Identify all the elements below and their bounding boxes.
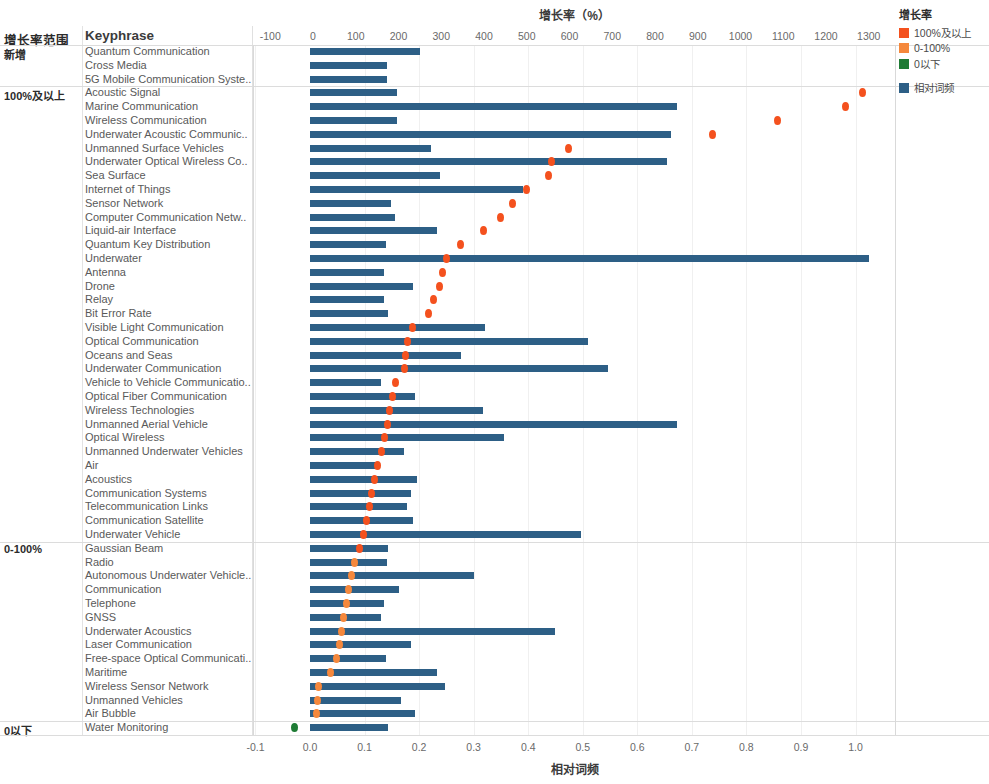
row-label-keyphrase: Optical Fiber Communication (85, 390, 227, 404)
top-tick-label: 100 (347, 30, 365, 42)
row-label-keyphrase: Antenna (85, 266, 126, 280)
legend-items: 100%及以上0-100%0以下 (899, 25, 985, 71)
row-label-keyphrase: Maritime (85, 666, 127, 680)
row-label-keyphrase: Wireless Communication (85, 114, 207, 128)
legend-swatch (899, 43, 909, 53)
legend-swatch (899, 28, 909, 38)
row-label-keyphrase: Communication Systems (85, 487, 207, 501)
row-label-keyphrase: Acoustic Signal (85, 86, 160, 100)
legend-label: 100%及以上 (914, 25, 971, 40)
row-label-keyphrase: Internet of Things (85, 183, 170, 197)
top-tick-label: 600 (561, 30, 579, 42)
row-label-keyphrase: Wireless Sensor Network (85, 680, 208, 694)
bottom-axis-title: 相对词频 (253, 760, 896, 777)
row-label-keyphrase: Laser Communication (85, 638, 192, 652)
row-label-keyphrase: Sensor Network (85, 197, 163, 211)
row-label-keyphrase: Air (85, 459, 98, 473)
row-label-keyphrase: Underwater Acoustics (85, 625, 191, 639)
row-label-keyphrase: Telephone (85, 597, 136, 611)
legend: 增长率 100%及以上0-100%0以下 相对词频 (899, 6, 985, 97)
bottom-tick-label: 0.2 (412, 741, 427, 753)
bottom-tick-label: 0.5 (575, 741, 590, 753)
top-tick-label: 1100 (772, 30, 795, 42)
legend-label: 0以下 (914, 56, 940, 71)
bottom-tick-label: 0.4 (521, 741, 536, 753)
row-label-keyphrase: Unmanned Vehicles (85, 694, 183, 708)
legend-label-bar: 相对词频 (914, 80, 954, 95)
top-tick-label: 500 (518, 30, 536, 42)
legend-item-1[interactable]: 0-100% (899, 42, 985, 54)
row-label-keyphrase: Acoustics (85, 473, 132, 487)
legend-swatch-bar (899, 83, 909, 93)
row-label-keyphrase: GNSS (85, 611, 116, 625)
row-label-keyphrase: Drone (85, 280, 115, 294)
row-label-keyphrase: Free-space Optical Communicati.. (85, 652, 251, 666)
legend-title: 增长率 (899, 6, 985, 22)
legend-item-2[interactable]: 0以下 (899, 56, 985, 71)
top-tick-label: 1200 (814, 30, 837, 42)
bottom-tick-label: 0.9 (794, 741, 809, 753)
top-tick-label: -100 (260, 30, 281, 42)
plot-area (253, 45, 896, 735)
legend-spacer (899, 73, 985, 80)
legend-swatch (899, 59, 909, 69)
row-label-keyphrase: Visible Light Communication (85, 321, 224, 335)
row-label-keyphrase: Quantum Communication (85, 45, 210, 59)
row-label-keyphrase: Telecommunication Links (85, 500, 208, 514)
row-label-keyphrase: Underwater (85, 252, 142, 266)
row-label-keyphrase: Unmanned Aerial Vehicle (85, 418, 208, 432)
chart-page: 增长率（%） 增长率范围 Keyphrase -1000100200300400… (0, 0, 989, 784)
top-tick-label: 700 (603, 30, 621, 42)
row-label-keyphrase: Optical Wireless (85, 431, 164, 445)
row-label-keyphrase: Water Monitoring (85, 721, 168, 735)
bottom-tick-label: 0.0 (303, 741, 318, 753)
row-label-keyphrase: Vehicle to Vehicle Communicatio.. (85, 376, 251, 390)
row-label-keyphrase: Underwater Vehicle (85, 528, 180, 542)
row-label-keyphrase: Wireless Technologies (85, 404, 194, 418)
row-label-keyphrase: Oceans and Seas (85, 349, 172, 363)
row-label-keyphrase: Liquid-air Interface (85, 224, 176, 238)
axis-baseline (0, 735, 989, 736)
top-tick-label: 200 (390, 30, 408, 42)
top-tick-label: 900 (689, 30, 707, 42)
row-label-keyphrase: Unmanned Surface Vehicles (85, 142, 224, 156)
row-label-keyphrase: Marine Communication (85, 100, 198, 114)
legend-item-relative-frequency[interactable]: 相对词频 (899, 80, 985, 95)
bottom-tick-label: 0.7 (685, 741, 700, 753)
row-label-keyphrase: Underwater Optical Wireless Co.. (85, 155, 248, 169)
top-tick-label: 0 (310, 30, 316, 42)
row-label-keyphrase: Optical Communication (85, 335, 199, 349)
row-label-keyphrase: Autonomous Underwater Vehicle.. (85, 569, 251, 583)
row-label-keyphrase: Quantum Key Distribution (85, 238, 210, 252)
bottom-tick-label: -0.1 (246, 741, 264, 753)
top-axis-title: 增长率（%） (253, 6, 896, 23)
row-label-keyphrase: Computer Communication Netw.. (85, 211, 246, 225)
row-label-keyphrase: Communication (85, 583, 161, 597)
bottom-tick-label: 0.1 (357, 741, 372, 753)
row-label-keyphrase: Gaussian Beam (85, 542, 163, 556)
row-label-keyphrase: Sea Surface (85, 169, 146, 183)
row-label-keyphrase: Unmanned Underwater Vehicles (85, 445, 243, 459)
row-label-keyphrase: 5G Mobile Communication Syste.. (85, 73, 251, 87)
legend-item-0[interactable]: 100%及以上 (899, 25, 985, 40)
bottom-tick-label: 0.6 (630, 741, 645, 753)
row-label-keyphrase: Cross Media (85, 59, 147, 73)
top-tick-label: 400 (475, 30, 493, 42)
top-tick-label: 1000 (729, 30, 752, 42)
top-tick-label: 300 (432, 30, 450, 42)
row-label-keyphrase: Air Bubble (85, 707, 136, 721)
row-label-keyphrase: Relay (85, 293, 113, 307)
bottom-tick-label: 1.0 (848, 741, 863, 753)
bottom-tick-label: 0.3 (466, 741, 481, 753)
legend-label: 0-100% (914, 42, 950, 54)
row-label-keyphrase: Underwater Communication (85, 362, 221, 376)
row-label-keyphrase: Communication Satellite (85, 514, 204, 528)
top-tick-label: 1300 (857, 30, 880, 42)
row-label-keyphrase: Radio (85, 556, 114, 570)
row-label-keyphrase: Underwater Acoustic Communic.. (85, 128, 248, 142)
top-tick-label: 800 (646, 30, 664, 42)
bottom-tick-label: 0.8 (739, 741, 754, 753)
keyphrase-column-header: Keyphrase (85, 28, 154, 43)
row-label-keyphrase: Bit Error Rate (85, 307, 152, 321)
